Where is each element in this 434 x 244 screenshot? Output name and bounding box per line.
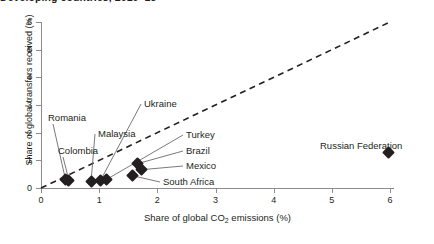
point-label-mexico: Mexico xyxy=(186,161,216,171)
y-tick-label: 0 xyxy=(20,184,32,193)
x-tick-label: 4 xyxy=(264,196,284,205)
x-tick xyxy=(332,188,333,193)
point-label-colombia: Colombia xyxy=(58,146,98,156)
x-axis-label-pre: Share of global CO xyxy=(144,212,225,223)
y-tick xyxy=(36,77,41,78)
y-tick xyxy=(36,22,41,23)
scatter-chart: Developing countries, 2010–15 0123456 01… xyxy=(0,0,434,244)
chart-title: Developing countries, 2010–15 xyxy=(0,0,434,5)
point-label-romania: Romania xyxy=(48,113,86,123)
leader-line xyxy=(106,135,183,180)
x-tick-label: 3 xyxy=(206,196,226,205)
point-label-russian-federation: Russian Federation xyxy=(320,141,402,151)
point-label-malaysia: Malaysia xyxy=(98,129,136,139)
x-tick xyxy=(157,188,158,193)
x-tick xyxy=(390,188,391,193)
x-tick xyxy=(41,188,42,193)
leader-line xyxy=(138,151,183,164)
x-axis-label-post: emissions (%) xyxy=(229,212,291,223)
x-tick-label: 6 xyxy=(380,196,400,205)
x-tick-label: 1 xyxy=(89,196,109,205)
y-tick xyxy=(36,133,41,134)
y-tick xyxy=(36,105,41,106)
x-tick xyxy=(274,188,275,193)
point-label-brazil: Brazil xyxy=(186,146,210,156)
x-tick-label: 2 xyxy=(147,196,167,205)
y-tick xyxy=(36,160,41,161)
x-tick-label: 0 xyxy=(31,196,51,205)
x-axis-line xyxy=(41,188,394,189)
x-tick xyxy=(216,188,217,193)
point-label-south-africa: South Africa xyxy=(163,177,214,187)
y-axis-label: Share of global transfers received (%) xyxy=(24,0,34,180)
y-axis-line xyxy=(41,22,42,188)
y-tick xyxy=(36,50,41,51)
x-axis-label: Share of global CO2 emissions (%) xyxy=(41,212,394,226)
x-tick xyxy=(99,188,100,193)
point-label-ukraine: Ukraine xyxy=(144,99,177,109)
point-label-turkey: Turkey xyxy=(186,130,215,140)
x-tick-label: 5 xyxy=(322,196,342,205)
